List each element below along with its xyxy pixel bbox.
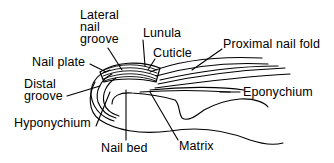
label-eponychium: Eponychium: [243, 86, 313, 98]
leader-proximal-nail-fold: [192, 49, 222, 70]
label-cuticle: Cuticle: [153, 47, 192, 59]
leader-lunula: [143, 40, 145, 66]
label-lateral-nail-groove: Lateral nail groove: [80, 9, 119, 45]
label-nail-bed: Nail bed: [101, 142, 148, 154]
label-hyponychium: Hyponychium: [14, 117, 91, 129]
label-nail-plate: Nail plate: [32, 56, 85, 68]
leader-nail-plate: [90, 64, 106, 72]
label-proximal-nail-fold: Proximal nail fold: [223, 38, 320, 50]
leader-distal-groove: [67, 86, 100, 96]
label-matrix: Matrix: [179, 140, 214, 152]
label-lunula: Lunula: [143, 27, 181, 39]
label-distal-groove: Distal groove: [24, 78, 63, 102]
label-line: groove: [80, 33, 119, 45]
label-line: groove: [24, 90, 63, 102]
